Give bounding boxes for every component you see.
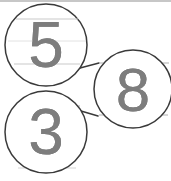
worksheet-canvas: 538538 <box>0 0 171 181</box>
number-connection-diagram: 538538 <box>0 0 171 181</box>
digit-glyph-5: 5 <box>28 9 64 81</box>
digit-glyph-3: 3 <box>28 96 64 168</box>
number-circles: 538538 <box>5 4 171 173</box>
digit-glyph-8: 8 <box>116 55 150 124</box>
